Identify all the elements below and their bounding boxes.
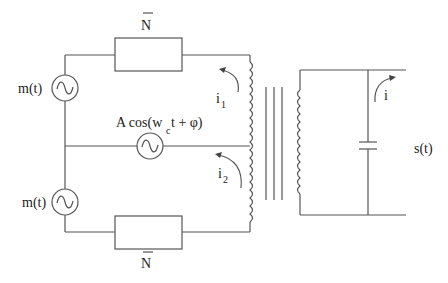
transformer-core xyxy=(266,87,282,200)
source-top-label: m(t) xyxy=(18,81,42,97)
transformer-primary-coil xyxy=(250,55,253,232)
svg-text:2: 2 xyxy=(223,174,228,185)
ac-source-carrier xyxy=(137,133,163,159)
current-arrow-i2: i 2 xyxy=(215,152,241,188)
output-label: s(t) xyxy=(414,141,433,157)
bottom-impedance-label: N xyxy=(141,252,153,271)
source-bottom-label: m(t) xyxy=(22,195,46,211)
svg-text:i: i xyxy=(384,88,388,103)
top-impedance xyxy=(115,38,182,71)
svg-text:i: i xyxy=(216,91,220,106)
carrier-label: A cos(w c t + φ) xyxy=(116,115,203,136)
bottom-impedance xyxy=(115,216,182,249)
current-arrow-i1: i 1 xyxy=(216,67,238,110)
ac-source-top xyxy=(52,75,78,101)
svg-text:1: 1 xyxy=(221,99,226,110)
svg-text:N: N xyxy=(141,256,151,271)
capacitor xyxy=(359,142,377,149)
svg-text:i: i xyxy=(218,166,222,181)
circuit-diagram: N N m(t) m(t) A cos(w c t + φ) xyxy=(0,0,448,283)
transformer-secondary-coil xyxy=(298,70,301,215)
svg-text:t + φ): t + φ) xyxy=(171,115,203,131)
output-wires xyxy=(300,70,406,215)
svg-text:A cos(w: A cos(w xyxy=(116,115,163,131)
svg-text:N: N xyxy=(141,18,151,33)
top-impedance-label: N xyxy=(141,13,153,33)
ac-source-bottom xyxy=(52,189,78,215)
current-arrow-i: i xyxy=(375,75,396,103)
